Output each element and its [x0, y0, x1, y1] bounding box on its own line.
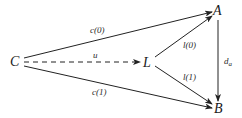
node-A: A [213, 4, 222, 18]
edge-label-l1: l(1) [183, 73, 196, 82]
edge-l0 [155, 16, 212, 57]
commutative-diagram: C L A B c(0) u c(1) l(0) l(1) da [0, 0, 242, 118]
edge-label-u: u [93, 51, 98, 60]
edge-label-c0: c(0) [90, 26, 105, 35]
edge-label-da-main: d [224, 56, 229, 66]
node-L: L [143, 56, 151, 70]
edge-c0 [24, 12, 212, 58]
node-C: C [10, 55, 19, 69]
edge-label-l0: l(0) [183, 41, 196, 50]
node-B: B [214, 102, 223, 116]
diagram-edges [0, 0, 242, 118]
edge-label-da-sub: a [229, 60, 233, 68]
edge-label-da: da [224, 57, 232, 66]
edge-label-c1: c(1) [92, 88, 107, 97]
